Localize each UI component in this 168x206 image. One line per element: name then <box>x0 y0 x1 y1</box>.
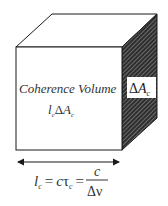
cube-front-face <box>16 47 122 150</box>
formula-lhs: lc=cτc= <box>34 173 84 191</box>
coherence-volume-diagram: ΔAc Coherence Volume lcΔAc lc=cτc= c Δν <box>0 0 168 206</box>
formula-denominator: Δν <box>87 184 102 199</box>
coherence-volume-title: Coherence Volume <box>19 81 117 96</box>
formula-numerator: c <box>94 164 101 179</box>
